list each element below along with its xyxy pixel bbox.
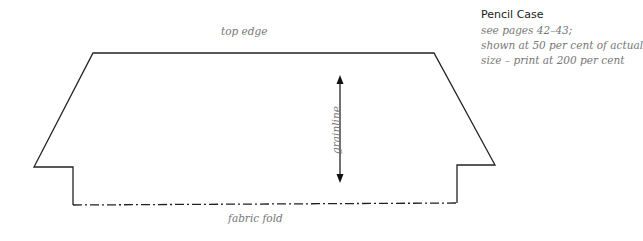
grainline-label: grainline — [330, 106, 342, 154]
note-line: see pages 42–43; — [481, 23, 631, 38]
fabric-fold-line — [73, 203, 457, 205]
fabric-fold-label: fabric fold — [228, 212, 283, 224]
note-line: shown at 50 per cent of actual — [481, 38, 631, 53]
top-edge-label: top edge — [221, 25, 267, 37]
pattern-notes: see pages 42–43; shown at 50 per cent of… — [481, 23, 631, 68]
page-title: Pencil Case — [481, 8, 544, 21]
note-line: size – print at 200 per cent — [481, 53, 631, 68]
pattern-outline — [34, 53, 495, 205]
